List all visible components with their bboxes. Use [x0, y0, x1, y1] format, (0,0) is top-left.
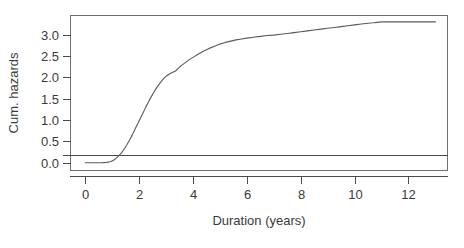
x-tick-label: 2 — [136, 187, 143, 202]
y-tick-label: 1.5 — [41, 92, 59, 107]
x-tick-label: 10 — [348, 187, 362, 202]
y-axis-title: Cum. hazards — [6, 52, 21, 133]
x-tick-label: 12 — [401, 187, 415, 202]
y-tick-label: 1.0 — [41, 113, 59, 128]
chart-figure: 0.00.51.01.52.02.53.0 024681012 Duration… — [0, 0, 464, 248]
x-tick-label: 6 — [244, 187, 251, 202]
y-tick-label: 2.5 — [41, 49, 59, 64]
x-tick-label: 8 — [298, 187, 305, 202]
y-tick-label: 0.5 — [41, 134, 59, 149]
x-tick-label: 4 — [190, 187, 197, 202]
y-tick-label: 0.0 — [41, 156, 59, 171]
y-tick-label: 3.0 — [41, 28, 59, 43]
cumulative-hazard-plot: 0.00.51.01.52.02.53.0 024681012 Duration… — [0, 0, 464, 248]
figure-background — [0, 0, 464, 248]
x-tick-label: 0 — [82, 187, 89, 202]
y-tick-label: 2.0 — [41, 70, 59, 85]
x-axis-title: Duration (years) — [212, 213, 305, 228]
